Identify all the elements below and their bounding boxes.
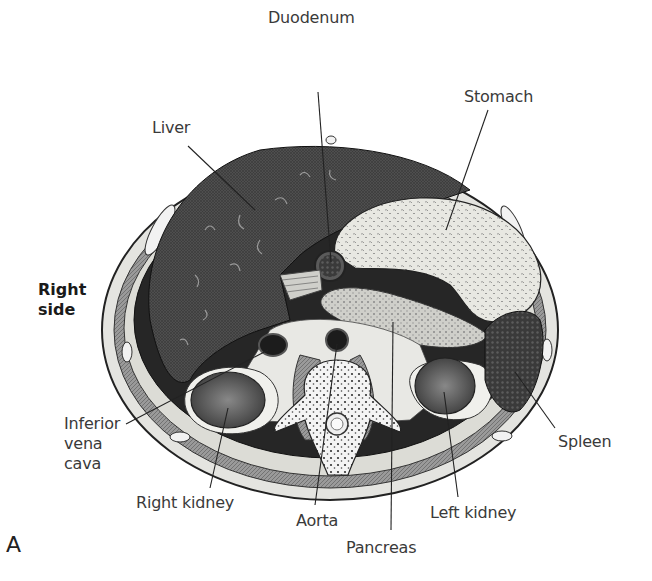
orientation-line-2: side xyxy=(38,300,86,320)
cross-section-illustration xyxy=(0,0,652,581)
right-kidney xyxy=(191,372,265,428)
orientation-line-1: Right xyxy=(38,280,86,300)
label-right-kidney: Right kidney xyxy=(136,493,234,513)
label-left-kidney: Left kidney xyxy=(430,503,516,523)
ivc-line-3: cava xyxy=(64,454,120,474)
panel-label: A xyxy=(6,532,21,557)
axial-abdomen-cross-section-diagram: Duodenum Stomach Liver Right side Inferi… xyxy=(0,0,652,581)
left-kidney xyxy=(415,358,475,414)
label-spleen: Spleen xyxy=(558,432,611,452)
ivc-line-1: Inferior xyxy=(64,414,120,434)
label-aorta: Aorta xyxy=(296,511,338,531)
label-liver: Liver xyxy=(152,118,190,138)
label-inferior-vena-cava: Inferior vena cava xyxy=(64,414,120,474)
orientation-label-right-side: Right side xyxy=(38,280,86,320)
label-pancreas: Pancreas xyxy=(346,538,416,558)
label-stomach: Stomach xyxy=(464,87,533,107)
ivc-line-2: vena xyxy=(64,434,120,454)
label-duodenum: Duodenum xyxy=(268,8,355,28)
